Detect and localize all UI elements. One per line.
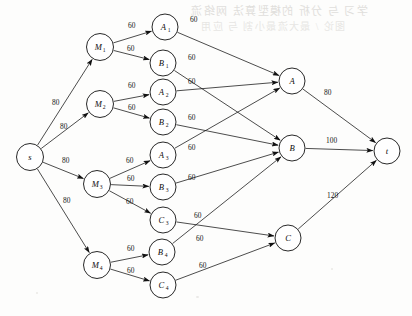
edge-B4-to-B <box>173 157 281 244</box>
node-subscript-C4: 4 <box>166 285 169 291</box>
node-s[interactable]: s <box>17 144 44 171</box>
node-B[interactable]: B <box>279 135 305 161</box>
node-subscript-B3: 3 <box>166 187 169 193</box>
node-label-C: C <box>285 233 291 243</box>
network-flow-diagram: 学习 与 分析 的模型算法 网络流 图论 / 最大流最小割 与 应用 sM1M2… <box>0 0 412 316</box>
node-subscript-A1: 1 <box>168 27 171 33</box>
node-A2[interactable]: A2 <box>150 79 176 105</box>
node-C[interactable]: C <box>275 225 301 251</box>
node-label-B4: B <box>158 247 164 257</box>
edge-capacity-label-M2-B2: 60 <box>128 103 136 112</box>
node-label-B2: B <box>159 117 165 127</box>
node-B1[interactable]: B1 <box>150 50 176 76</box>
edge-A-to-t <box>303 89 376 143</box>
edge-capacity-label-B1-B: 60 <box>188 53 196 62</box>
node-M1[interactable]: M1 <box>87 34 114 61</box>
node-label-B3: B <box>159 182 165 192</box>
node-A[interactable]: A <box>279 68 305 94</box>
node-M3[interactable]: M3 <box>84 171 111 198</box>
node-label-C3: C <box>159 215 165 225</box>
node-label-A: A <box>288 76 295 86</box>
edges-layer <box>37 31 376 281</box>
edge-capacity-label-B2-B: 60 <box>188 113 196 122</box>
edge-M4-to-B4 <box>111 255 148 262</box>
edge-capacity-label-M3-C3: 60 <box>126 197 134 206</box>
edge-capacity-label-C3-C: 60 <box>194 211 202 220</box>
node-label-B: B <box>289 143 295 153</box>
node-label-A2: A <box>158 87 165 97</box>
edge-B-to-t <box>306 148 373 150</box>
edge-M3-to-B3 <box>111 185 149 187</box>
edge-M1-to-A1 <box>113 31 151 43</box>
edge-capacity-label-B-t: 100 <box>326 136 337 145</box>
edge-capacity-label-M1-A1: 60 <box>128 21 136 30</box>
edge-M2-to-A2 <box>114 95 149 102</box>
edge-capacity-label-A3-A: 60 <box>188 143 196 152</box>
node-subscript-M4: 4 <box>100 265 103 271</box>
edge-capacity-label-A2-A: 60 <box>188 77 196 86</box>
edge-s-to-M4 <box>37 169 89 253</box>
node-label-M2: M <box>94 99 103 109</box>
edge-capacity-label-M3-B3: 60 <box>127 174 135 183</box>
node-M2[interactable]: M2 <box>87 91 114 118</box>
node-label-M3: M <box>91 179 100 189</box>
edge-capacity-label-M4-C4: 60 <box>127 266 135 275</box>
node-C4[interactable]: C4 <box>150 272 176 298</box>
node-label-A3: A <box>158 150 165 160</box>
nodes-layer: sM1M2M3M4A1B1A2B2A3B3C3B4C4ABCt <box>17 14 401 298</box>
edge-capacity-label-B3-B: 60 <box>188 173 196 182</box>
edge-capacity-label-C-t: 120 <box>327 191 338 200</box>
node-label-B1: B <box>159 58 165 68</box>
node-label-A1: A <box>160 22 167 32</box>
node-label-C4: C <box>159 280 165 290</box>
edge-capacity-label-C4-C: 60 <box>199 261 207 270</box>
edge-capacity-label-A-t: 80 <box>324 88 332 97</box>
edge-s-to-M1 <box>38 59 93 145</box>
edge-capacity-label-M2-A2: 60 <box>128 81 136 90</box>
graph-svg: sM1M2M3M4A1B1A2B2A3B3C3B4C4ABCt 80808080… <box>0 0 412 316</box>
node-subscript-A3: 3 <box>166 155 169 161</box>
edge-capacity-label-s-M4: 80 <box>63 196 71 205</box>
edge-C4-to-C <box>176 243 275 280</box>
edge-capacity-label-A1-A: 60 <box>190 15 198 24</box>
node-B2[interactable]: B2 <box>150 109 176 135</box>
node-subscript-B4: 4 <box>165 252 168 258</box>
node-t[interactable]: t <box>374 138 400 164</box>
edge-capacity-label-M1-B1: 60 <box>127 44 135 53</box>
edge-capacity-label-B4-B: 60 <box>196 234 204 243</box>
node-subscript-C3: 3 <box>166 220 169 226</box>
node-subscript-B2: 2 <box>166 122 169 128</box>
node-M4[interactable]: M4 <box>84 252 111 279</box>
node-B3[interactable]: B3 <box>150 174 176 200</box>
edge-capacity-label-s-M1: 80 <box>52 98 60 107</box>
node-subscript-M1: 1 <box>103 47 106 53</box>
node-subscript-M2: 2 <box>103 104 106 110</box>
node-C3[interactable]: C3 <box>150 207 176 233</box>
edge-capacity-label-s-M2: 80 <box>60 122 68 131</box>
node-subscript-A2: 2 <box>166 92 169 98</box>
edge-capacity-label-s-M3: 80 <box>62 156 70 165</box>
edge-capacity-label-M4-B4: 60 <box>127 244 135 253</box>
node-subscript-B1: 1 <box>166 63 169 69</box>
node-B4[interactable]: B4 <box>149 239 175 265</box>
node-subscript-M3: 3 <box>100 184 103 190</box>
edge-capacity-label-M3-A3: 60 <box>126 156 134 165</box>
node-label-M4: M <box>91 260 100 270</box>
node-label-M1: M <box>94 42 103 52</box>
node-A3[interactable]: A3 <box>150 142 176 168</box>
node-A1[interactable]: A1 <box>152 14 178 40</box>
